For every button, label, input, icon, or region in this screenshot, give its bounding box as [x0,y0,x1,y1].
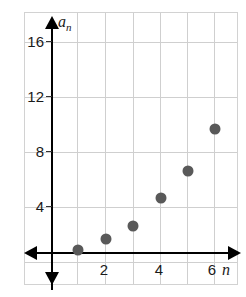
plot-frame [24,12,238,285]
gridline-vertical-3 [133,13,134,284]
gridline-horizontal-4 [25,207,237,208]
y-tick-label-4: 4 [18,199,44,214]
y-axis-arrow-down-icon [45,272,59,285]
data-point [73,245,84,256]
data-point [183,165,194,176]
y-tick-mark-16 [46,41,52,42]
y-tick-mark-4 [46,206,52,207]
x-tick-label-4: 4 [146,262,172,277]
gridline-vertical-6 [214,13,215,284]
y-tick-label-8: 8 [18,144,44,159]
y-axis-title-subscript: n [66,21,72,33]
gridline-vertical-4 [160,13,161,284]
y-tick-mark-8 [46,151,52,152]
y-tick-label-16: 16 [18,34,44,49]
gridline-horizontal-16 [25,42,237,43]
gridline-horizontal-8 [25,152,237,153]
gridline-vertical-1 [77,13,78,284]
x-axis-arrow-right-icon [228,246,241,260]
x-tick-label-2: 2 [91,262,117,277]
y-axis-arrow-up-icon [45,16,59,29]
scatter-plot-screenshot: 16 12 8 4 2 4 6 an n [0,0,246,297]
x-axis-line [30,252,235,254]
y-tick-label-12: 12 [18,89,44,104]
gridlines [25,13,237,284]
x-axis-title: n [222,262,230,278]
data-point [155,193,166,204]
data-point [128,220,139,231]
y-tick-mark-12 [46,96,52,97]
gridline-horizontal-12 [25,97,237,98]
y-axis-line [51,24,53,290]
x-axis-arrow-left-icon [24,246,37,260]
data-point [100,234,111,245]
data-point [210,124,221,135]
gridline-vertical-5 [187,13,188,284]
y-axis-title: an [58,14,72,33]
y-axis-title-base: a [58,13,66,30]
